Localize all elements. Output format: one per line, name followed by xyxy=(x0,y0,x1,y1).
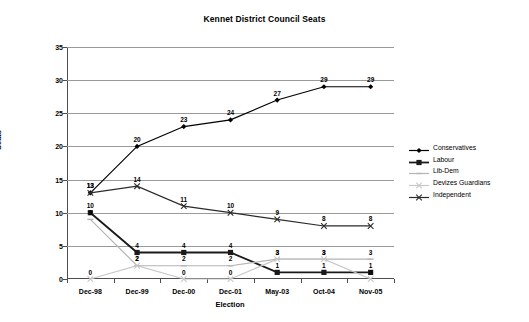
data-point-label: 3 xyxy=(369,249,373,256)
data-point-label: 8 xyxy=(369,215,373,222)
data-point-label: 9 xyxy=(89,209,93,216)
y-axis-tick-label: 5 xyxy=(41,242,63,249)
y-axis-tick-mark xyxy=(63,146,67,147)
x-axis-tick-mark xyxy=(301,279,302,283)
data-point-label: 13 xyxy=(87,182,94,189)
data-point-label: 29 xyxy=(320,76,327,83)
legend-marker-icon xyxy=(408,154,430,165)
data-point-label: 0 xyxy=(89,269,93,276)
data-point-label: 2 xyxy=(229,255,233,262)
y-axis-tick-mark xyxy=(63,47,67,48)
legend-marker-icon xyxy=(408,142,430,153)
legend-item-lib-dem[interactable]: Lib-Dem xyxy=(408,165,526,177)
data-point-label: 3 xyxy=(275,249,279,256)
data-point-label: 23 xyxy=(180,116,187,123)
x-axis-tick-mark xyxy=(254,279,255,283)
y-axis-title: Seats xyxy=(0,130,3,150)
y-axis-tick-label: 10 xyxy=(41,209,63,216)
legend-marker-icon xyxy=(408,177,430,188)
data-point-label: 1 xyxy=(322,262,326,269)
x-axis-tick-mark xyxy=(160,279,161,283)
data-point-label: 1 xyxy=(275,262,279,269)
data-point-label: 2 xyxy=(182,255,186,262)
chart-legend: ConservativesLabourLib-DemDevizes Guardi… xyxy=(408,142,526,200)
legend-item-devizes-guardians[interactable]: Devizes Guardians xyxy=(408,177,526,189)
data-point-label: 4 xyxy=(135,242,139,249)
gridline xyxy=(67,80,394,81)
y-axis-tick-label: 0 xyxy=(41,276,63,283)
legend-item-conservatives[interactable]: Conservatives xyxy=(408,142,526,154)
data-point-label: 2 xyxy=(135,255,139,262)
legend-marker-icon xyxy=(408,189,430,200)
y-axis-tick-mark xyxy=(63,80,67,81)
legend-marker-icon xyxy=(408,165,430,176)
x-axis-tick-mark xyxy=(114,279,115,283)
data-point-label: 9 xyxy=(275,209,279,216)
gridline xyxy=(67,180,394,181)
x-axis-title: Election xyxy=(0,300,460,309)
y-axis-tick-label: 30 xyxy=(41,77,63,84)
data-point-label: 14 xyxy=(133,176,140,183)
legend-item-labour[interactable]: Labour xyxy=(408,154,526,166)
data-point-label: 10 xyxy=(227,202,234,209)
y-axis-tick-mark xyxy=(63,246,67,247)
data-point-label: 11 xyxy=(180,196,187,203)
data-point-label: 8 xyxy=(322,215,326,222)
y-axis-tick-labels: 05101520253035 xyxy=(41,47,63,279)
y-axis-tick-mark xyxy=(63,113,67,114)
data-point-label: 24 xyxy=(227,109,234,116)
data-point-label: 4 xyxy=(229,242,233,249)
data-point-label: 4 xyxy=(182,242,186,249)
data-point-marker xyxy=(416,160,421,165)
y-axis-tick-label: 25 xyxy=(41,110,63,117)
legend-item-independent[interactable]: Independent xyxy=(408,188,526,200)
data-point-label: 3 xyxy=(322,249,326,256)
gridline xyxy=(67,213,394,214)
legend-label: Conservatives xyxy=(430,144,476,151)
x-axis-tick-mark xyxy=(67,279,68,283)
chart-title: Kennet District Council Seats xyxy=(0,14,529,24)
y-axis-tick-label: 20 xyxy=(41,143,63,150)
legend-label: Independent xyxy=(430,191,471,198)
data-point-marker xyxy=(416,148,421,153)
data-point-label: 0 xyxy=(229,269,233,276)
x-axis-tick-mark xyxy=(394,279,395,283)
y-axis-tick-mark xyxy=(63,279,67,280)
gridline xyxy=(67,146,394,147)
y-axis-line xyxy=(67,47,68,279)
y-axis-tick-label: 35 xyxy=(41,44,63,51)
x-axis-tick-mark xyxy=(207,279,208,283)
gridline xyxy=(67,47,394,48)
y-axis-tick-mark xyxy=(63,213,67,214)
x-axis-tick-label: Nov-05 xyxy=(341,288,401,295)
data-point-label: 27 xyxy=(274,90,281,97)
y-axis-tick-mark xyxy=(63,180,67,181)
legend-label: Labour xyxy=(430,156,454,163)
legend-label: Lib-Dem xyxy=(430,167,459,174)
legend-label: Devizes Guardians xyxy=(430,179,490,186)
data-point-label: 0 xyxy=(369,269,373,276)
data-point-label: 29 xyxy=(367,76,374,83)
chart-container: Kennet District Council Seats Seats 0510… xyxy=(0,0,529,322)
y-axis-tick-label: 15 xyxy=(41,176,63,183)
data-point-label: 0 xyxy=(182,269,186,276)
data-point-label: 20 xyxy=(133,136,140,143)
x-axis-tick-mark xyxy=(347,279,348,283)
